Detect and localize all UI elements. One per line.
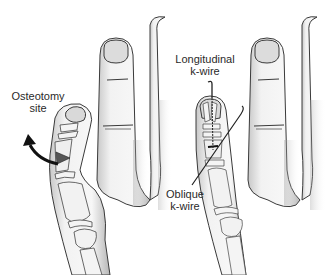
label-line: k-wire [170,65,240,77]
middle-finger-left [97,38,150,207]
oblique-k-wire-label: Oblique k-wire [160,188,210,212]
label-line: Longitudinal [170,53,240,65]
middle-finger-right [248,38,300,207]
illustration [0,0,331,275]
left-panel [23,17,172,275]
osteotomy-site-label: Osteotomy site [4,90,72,114]
back-finger-left [150,17,172,210]
longitudinal-k-wire-label: Longitudinal k-wire [170,53,240,77]
label-line: Oblique [160,188,210,200]
label-line: k-wire [160,200,210,212]
label-line: Osteotomy [4,90,72,102]
label-line: site [4,102,72,114]
corrected-finger [196,96,246,275]
back-finger-right [302,17,326,210]
